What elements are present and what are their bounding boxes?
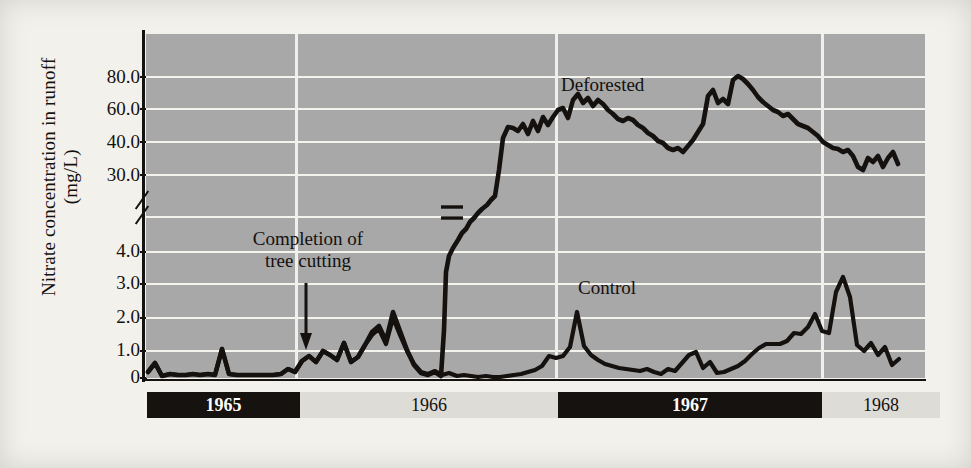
y-axis-title: Nitrate concentration in runoff (mg/L) — [38, 0, 82, 377]
y-tick-4: 4.0 — [80, 240, 140, 262]
y-tick-30: 30.0 — [80, 164, 140, 186]
gridline-30 — [146, 174, 925, 176]
gridline-1967 — [555, 34, 558, 378]
annotation-tree-cutting: Completion of tree cutting — [218, 228, 398, 272]
year-block-1967: 1967 — [558, 392, 822, 418]
year-block-1966: 1966 — [300, 392, 558, 418]
gridline-1 — [146, 350, 925, 352]
figure-canvas: Nitrate concentration in runoff (mg/L) 8… — [0, 0, 971, 468]
gridline-1968 — [821, 34, 824, 378]
y-tick-60: 60.0 — [80, 98, 140, 120]
gridline-3 — [146, 283, 925, 285]
year-block-1965: 1965 — [147, 392, 300, 418]
annotation-tree-cutting-line2: tree cutting — [265, 250, 351, 271]
y-tick-40: 40.0 — [80, 131, 140, 153]
gridline-60 — [146, 108, 925, 110]
y-axis-title-line1: Nitrate concentration in runoff — [38, 58, 59, 297]
gridline-1966 — [295, 34, 298, 378]
series-label-control: Control — [578, 277, 636, 299]
y-axis-tick-labels: 80.0 60.0 40.0 30.0 4.0 3.0 2.0 1.0 0 — [78, 0, 140, 468]
y-tick-0: 0 — [80, 366, 140, 388]
y-axis-line — [142, 30, 145, 382]
series-label-deforested: Deforested — [561, 74, 644, 96]
gridline-break — [146, 216, 925, 218]
gridline-80 — [146, 76, 925, 78]
plot-area — [146, 34, 925, 378]
y-tick-1: 1.0 — [80, 339, 140, 361]
y-tick-80: 80.0 — [80, 66, 140, 88]
x-axis-year-bar: 1965 1966 1967 1968 — [147, 392, 940, 418]
gridline-2 — [146, 317, 925, 319]
annotation-tree-cutting-line1: Completion of — [253, 228, 363, 249]
year-block-1968: 1968 — [822, 392, 940, 418]
y-tick-3: 3.0 — [80, 272, 140, 294]
gridline-40 — [146, 141, 925, 143]
y-tick-2: 2.0 — [80, 306, 140, 328]
x-axis-line — [142, 379, 926, 381]
